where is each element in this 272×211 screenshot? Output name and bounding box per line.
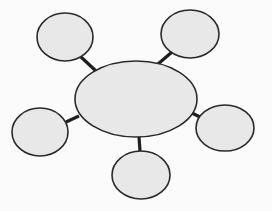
node-right xyxy=(196,105,254,151)
node-top-left xyxy=(37,13,93,61)
node-left xyxy=(12,108,68,156)
center-node xyxy=(75,61,197,137)
node-bottom xyxy=(112,151,170,199)
bubble-map-diagram xyxy=(0,0,272,211)
connector-bottom xyxy=(139,137,140,151)
node-top-right xyxy=(161,10,219,58)
